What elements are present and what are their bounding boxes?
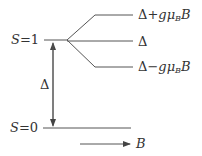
split-upper-branch xyxy=(67,15,95,40)
field-label: B xyxy=(136,137,146,151)
upper-level-label: Δ+gμBB xyxy=(138,8,191,26)
split-lower-branch xyxy=(67,40,95,67)
lower-level-label: Δ−gμBB xyxy=(138,60,191,78)
gap-label: Δ xyxy=(40,78,49,92)
middle-level-label: Δ xyxy=(138,35,147,49)
level-label-s1: S=1 xyxy=(11,33,39,47)
level-label-s0: S=0 xyxy=(10,121,38,135)
